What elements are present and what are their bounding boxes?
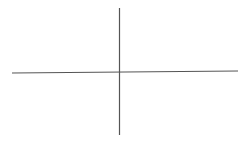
horizontal-axis-line [12, 71, 238, 73]
axes-svg [0, 0, 248, 145]
diagram-canvas [0, 0, 248, 145]
